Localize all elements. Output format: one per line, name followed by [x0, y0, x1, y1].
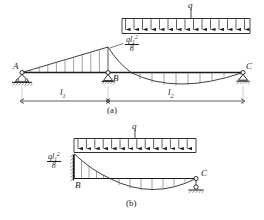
panel-a: [12, 9, 250, 105]
panel-b-distributed-load: [74, 130, 196, 153]
panel-a-dim-label-l2: l2: [168, 88, 174, 99]
panel-b-node-label-C: C: [201, 169, 207, 178]
panel-b-caption: (b): [126, 199, 137, 208]
panel-a-load-symbol: q: [188, 1, 193, 10]
panel-a-moment-denominator: 8: [125, 45, 139, 53]
panel-a-dim-label-l1: l1: [60, 88, 66, 99]
panel-a-moment-value: ql12 8: [125, 36, 139, 54]
panel-a-hogging-diagram: [22, 44, 123, 73]
panel-a-node-label-A: A: [13, 62, 19, 71]
panel-a-moment-numerator: ql12: [125, 36, 139, 45]
panel-b-moment-diagram: [74, 154, 196, 191]
panel-b-moment-numerator: ql12: [47, 153, 61, 162]
panel-b-node-label-B: B: [75, 181, 81, 190]
figure-root: q ql12 8 A B C l1 l2 (a) q ql12 8 B C (b…: [0, 0, 264, 220]
panel-a-caption: (a): [107, 106, 117, 115]
panel-b-moment-denominator: 8: [47, 162, 61, 170]
panel-b-load-symbol: q: [132, 122, 137, 131]
figure-svg: [0, 0, 264, 220]
panel-b-support-B: [70, 155, 73, 182]
panel-a-distributed-load: [122, 9, 250, 34]
panel-b-moment-value: ql12 8: [47, 153, 61, 171]
panel-a-dimension-lines: [22, 86, 243, 104]
panel-a-node-label-C: C: [246, 62, 252, 71]
panel-a-node-label-B: B: [113, 74, 119, 83]
panel-b: [70, 130, 204, 194]
